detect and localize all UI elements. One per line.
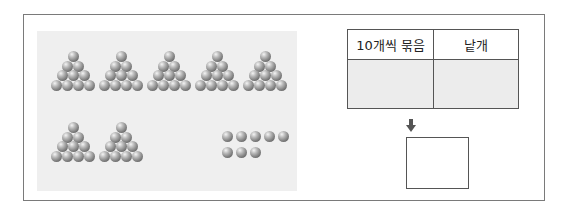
ball <box>254 80 265 91</box>
ball <box>132 80 143 91</box>
ball <box>121 151 132 162</box>
loose-ball <box>278 131 289 142</box>
ten-group <box>99 51 143 91</box>
tens-input-cell[interactable] <box>348 60 434 109</box>
ball <box>206 80 217 91</box>
ball <box>62 151 73 162</box>
header-ones: 낱개 <box>434 30 519 60</box>
ball <box>265 80 276 91</box>
ball <box>51 151 62 162</box>
ten-group <box>147 51 191 91</box>
ball <box>73 80 84 91</box>
ball <box>99 151 110 162</box>
ten-group <box>243 51 287 91</box>
ball <box>51 80 62 91</box>
ball <box>110 151 121 162</box>
loose-ball <box>250 131 261 142</box>
ball <box>99 80 110 91</box>
ten-group <box>99 122 143 162</box>
place-value-table: 10개씩 묶음 낱개 <box>347 29 519 109</box>
ones-input-cell[interactable] <box>434 60 519 109</box>
ten-group <box>51 122 95 162</box>
header-tens: 10개씩 묶음 <box>348 30 434 60</box>
ten-group <box>51 51 95 91</box>
ball <box>158 80 169 91</box>
ball <box>180 80 191 91</box>
ball <box>228 80 239 91</box>
ball <box>84 151 95 162</box>
ball <box>110 80 121 91</box>
ball <box>121 80 132 91</box>
ball <box>147 80 158 91</box>
ten-group <box>195 51 239 91</box>
ball <box>132 151 143 162</box>
loose-ball <box>250 147 261 158</box>
ball <box>84 80 95 91</box>
loose-ball <box>236 147 247 158</box>
ball <box>62 80 73 91</box>
down-arrow-icon <box>406 117 416 130</box>
loose-ball <box>222 147 233 158</box>
ball <box>169 80 180 91</box>
ball <box>243 80 254 91</box>
ball <box>217 80 228 91</box>
ball <box>195 80 206 91</box>
loose-ball <box>264 131 275 142</box>
answer-box[interactable] <box>406 137 469 189</box>
loose-ball <box>236 131 247 142</box>
ball <box>276 80 287 91</box>
loose-ball <box>222 131 233 142</box>
ball <box>73 151 84 162</box>
